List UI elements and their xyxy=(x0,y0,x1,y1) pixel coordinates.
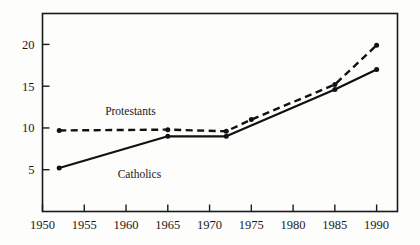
series-line-catholics xyxy=(59,69,376,168)
x-tick-label: 1985 xyxy=(322,218,347,232)
y-axis-ticks xyxy=(43,44,50,169)
data-point xyxy=(332,82,337,87)
data-point xyxy=(374,43,379,48)
y-axis-tick-labels: 5101520 xyxy=(22,38,35,177)
y-tick-label: 20 xyxy=(22,38,35,52)
data-point xyxy=(165,134,170,139)
line-chart: 5101520 19501955196019651970197519801985… xyxy=(0,0,420,245)
y-tick-label: 5 xyxy=(28,163,34,177)
data-point xyxy=(332,87,337,92)
data-point xyxy=(249,117,254,122)
x-tick-label: 1960 xyxy=(114,218,139,232)
data-point xyxy=(165,127,170,132)
x-tick-label: 1970 xyxy=(197,218,222,232)
chart-canvas: 5101520 19501955196019651970197519801985… xyxy=(0,0,420,245)
data-point xyxy=(224,134,229,139)
series-line-protestants xyxy=(59,45,376,131)
x-axis-tick-labels: 195019551960196519701975198019851990 xyxy=(30,218,389,232)
x-tick-label: 1980 xyxy=(281,218,306,232)
series-annotation: Catholics xyxy=(118,168,162,180)
x-axis-ticks xyxy=(43,205,377,212)
data-point xyxy=(224,129,229,134)
series-annotations: ProtestantsCatholics xyxy=(105,105,161,180)
x-tick-label: 1990 xyxy=(364,218,389,232)
x-tick-label: 1965 xyxy=(155,218,180,232)
x-tick-label: 1955 xyxy=(72,218,97,232)
x-tick-label: 1975 xyxy=(239,218,264,232)
data-point xyxy=(57,128,62,133)
data-point xyxy=(374,67,379,72)
series-annotation: Protestants xyxy=(105,105,156,117)
x-tick-label: 1950 xyxy=(30,218,55,232)
y-tick-label: 15 xyxy=(22,80,35,94)
plot-frame xyxy=(43,14,398,212)
data-point xyxy=(57,166,62,171)
y-tick-label: 10 xyxy=(22,121,35,135)
